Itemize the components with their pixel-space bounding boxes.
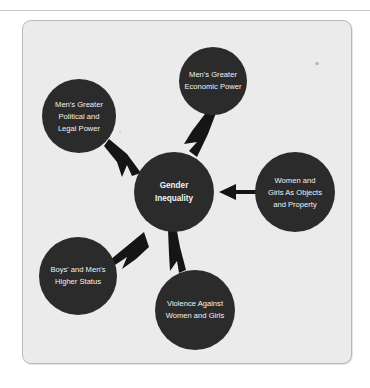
node-label-line: and Property <box>273 200 317 209</box>
node-label-line: Legal Power <box>58 124 101 133</box>
node-circle <box>39 237 117 315</box>
node-circle <box>179 47 247 115</box>
center-node-circle <box>134 152 214 232</box>
arrow-from-economic-power <box>184 110 216 157</box>
node-label-line: Violence Against <box>167 299 224 308</box>
node-label-line: Boys' and Men's <box>50 265 105 274</box>
page-top-rule <box>0 10 370 11</box>
node-label-line: Women and Girls <box>166 311 225 320</box>
node-label-line: Men's Greater <box>189 70 237 79</box>
node-violence-against-women-and-girls[interactable]: Violence Against Women and Girls <box>155 270 235 350</box>
node-gender-inequality[interactable]: Gender Inequality <box>134 152 214 232</box>
node-mens-greater-economic-power[interactable]: Men's Greater Economic Power <box>179 47 247 115</box>
node-label-line: Women and <box>275 176 316 185</box>
concept-map-diagram: Men's Greater Economic Power Men's Great… <box>23 21 352 364</box>
arrow-from-higher-status <box>110 232 149 269</box>
node-label-line: Political and <box>59 112 100 121</box>
node-circle <box>155 270 235 350</box>
node-mens-greater-political-and-legal-power[interactable]: Men's Greater Political and Legal Power <box>42 79 116 153</box>
node-label-line: Economic Power <box>185 82 242 91</box>
node-label-line: Higher Status <box>55 277 101 286</box>
node-women-and-girls-as-objects-and-property[interactable]: Women and Girls As Objects and Property <box>255 152 335 232</box>
figure-panel: Men's Greater Economic Power Men's Great… <box>22 20 352 364</box>
node-label-line: Girls As Objects <box>268 188 322 197</box>
arrow-from-violence <box>168 226 186 273</box>
arrow-from-political-legal-power <box>104 139 141 177</box>
page-canvas: Men's Greater Economic Power Men's Great… <box>0 0 370 388</box>
node-boys-and-mens-higher-status[interactable]: Boys' and Men's Higher Status <box>39 237 117 315</box>
center-node-label-line: Inequality <box>155 194 194 203</box>
center-node-label-line: Gender <box>160 181 189 190</box>
node-label-line: Men's Greater <box>55 100 103 109</box>
